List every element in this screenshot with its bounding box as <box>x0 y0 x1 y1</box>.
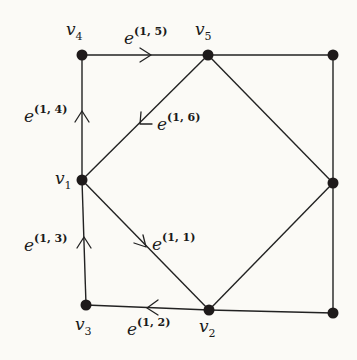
node-v2 <box>204 305 215 316</box>
edge-v2-mid-right <box>209 183 333 310</box>
node-v5 <box>203 50 214 61</box>
edge-e13 <box>82 180 86 305</box>
graph-diagram: v4 v5 v1 v3 v2 e(1, 5) e(1, 6) e(1, 4) e… <box>0 0 357 360</box>
label-e14: e(1, 4) <box>24 103 67 126</box>
label-e13: e(1, 3) <box>24 232 67 255</box>
label-e11: e(1, 1) <box>152 231 195 254</box>
node-mid-right <box>328 178 339 189</box>
arrow-e16-head-icon <box>140 112 152 124</box>
label-e12: e(1, 2) <box>127 316 170 339</box>
edge-v5-mid-right <box>208 55 333 183</box>
directed-edges <box>75 48 209 315</box>
node-top-right <box>328 50 339 61</box>
label-v2: v2 <box>199 316 216 340</box>
label-v3: v3 <box>75 314 92 338</box>
arrow-e11-icon <box>134 235 146 247</box>
label-e15: e(1, 5) <box>124 25 167 48</box>
undirected-edges <box>208 55 333 313</box>
nodes <box>77 50 339 319</box>
label-v4: v4 <box>66 19 83 43</box>
node-bottom-right <box>328 308 339 319</box>
edge-labels: e(1, 5) e(1, 6) e(1, 4) e(1, 3) e(1, 1) … <box>24 25 200 339</box>
node-v3 <box>81 300 92 311</box>
node-v4 <box>77 50 88 61</box>
edge-v2-bottom-right <box>209 310 333 313</box>
node-v1 <box>77 175 88 186</box>
label-e16: e(1, 6) <box>157 111 200 134</box>
label-v5: v5 <box>195 19 212 43</box>
label-v1: v1 <box>55 168 72 192</box>
